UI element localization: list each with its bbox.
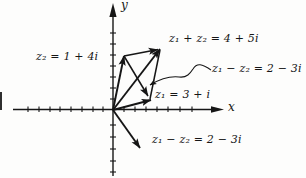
- vector-z1-minus-z2: [113, 110, 140, 148]
- y-axis-arrowhead: [109, 3, 116, 17]
- leader-squiggle: [150, 65, 211, 85]
- sum-vector-label: z₁ + z₂ = 4 + 5i: [169, 33, 259, 45]
- complex-plane-figure: y x z₂ = 1 + 4i z₁ + z₂ = 4 + 5i z₁ − z₂…: [0, 0, 306, 178]
- parallelogram-side-top: [124, 50, 158, 57]
- diagram-canvas: [0, 0, 306, 178]
- z2-vector-label: z₂ = 1 + 4i: [36, 51, 98, 63]
- y-axis-label: y: [121, 0, 128, 11]
- difference-label-top: z₁ − z₂ = 2 − 3i: [212, 63, 302, 75]
- x-axis-arrowhead: [211, 106, 224, 113]
- z1-vector-label: z₁ = 3 + i: [155, 89, 210, 101]
- x-axis-label: x: [228, 101, 235, 113]
- scan-edge-artifact: [0, 92, 2, 110]
- difference-label-bottom: z₁ − z₂ = 2 − 3i: [152, 134, 242, 146]
